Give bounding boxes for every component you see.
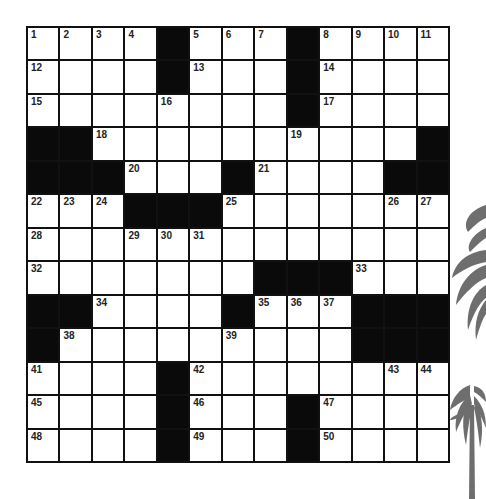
grid-cell[interactable]: 7 — [255, 28, 285, 59]
grid-cell[interactable]: 45 — [28, 396, 58, 427]
grid-cell[interactable]: 8 — [320, 28, 350, 59]
grid-cell[interactable] — [190, 296, 220, 327]
grid-cell[interactable] — [158, 296, 188, 327]
grid-cell[interactable] — [93, 396, 123, 427]
grid-cell[interactable] — [385, 229, 415, 260]
grid-cell[interactable] — [353, 162, 383, 193]
grid-cell[interactable]: 32 — [28, 262, 58, 293]
grid-cell[interactable] — [190, 262, 220, 293]
grid-cell[interactable] — [60, 61, 90, 92]
grid-cell[interactable]: 18 — [93, 128, 123, 159]
grid-cell[interactable] — [125, 61, 155, 92]
grid-cell[interactable] — [288, 162, 318, 193]
grid-cell[interactable] — [93, 262, 123, 293]
grid-cell[interactable] — [190, 128, 220, 159]
grid-cell[interactable]: 33 — [353, 262, 383, 293]
grid-cell[interactable]: 42 — [190, 363, 220, 394]
grid-cell[interactable]: 5 — [190, 28, 220, 59]
grid-cell[interactable]: 29 — [125, 229, 155, 260]
grid-cell[interactable]: 41 — [28, 363, 58, 394]
grid-cell[interactable]: 17 — [320, 95, 350, 126]
grid-cell[interactable] — [288, 229, 318, 260]
grid-cell[interactable]: 48 — [28, 430, 58, 461]
grid-cell[interactable]: 35 — [255, 296, 285, 327]
grid-cell[interactable] — [320, 162, 350, 193]
grid-cell[interactable]: 34 — [93, 296, 123, 327]
grid-cell[interactable]: 14 — [320, 61, 350, 92]
grid-cell[interactable]: 31 — [190, 229, 220, 260]
grid-cell[interactable]: 36 — [288, 296, 318, 327]
grid-cell[interactable] — [418, 430, 448, 461]
grid-cell[interactable] — [223, 262, 253, 293]
grid-cell[interactable] — [353, 430, 383, 461]
grid-cell[interactable] — [255, 329, 285, 360]
grid-cell[interactable]: 25 — [223, 195, 253, 226]
grid-cell[interactable] — [93, 95, 123, 126]
grid-cell[interactable] — [125, 95, 155, 126]
grid-cell[interactable] — [223, 363, 253, 394]
grid-cell[interactable]: 43 — [385, 363, 415, 394]
grid-cell[interactable] — [223, 396, 253, 427]
grid-cell[interactable] — [385, 396, 415, 427]
grid-cell[interactable] — [93, 363, 123, 394]
grid-cell[interactable] — [223, 61, 253, 92]
grid-cell[interactable]: 12 — [28, 61, 58, 92]
grid-cell[interactable] — [158, 128, 188, 159]
grid-cell[interactable] — [288, 363, 318, 394]
grid-cell[interactable] — [255, 95, 285, 126]
grid-cell[interactable] — [190, 162, 220, 193]
grid-cell[interactable] — [125, 363, 155, 394]
grid-cell[interactable] — [60, 95, 90, 126]
grid-cell[interactable] — [158, 262, 188, 293]
grid-cell[interactable]: 6 — [223, 28, 253, 59]
grid-cell[interactable] — [418, 61, 448, 92]
grid-cell[interactable]: 23 — [60, 195, 90, 226]
grid-cell[interactable]: 3 — [93, 28, 123, 59]
grid-cell[interactable]: 21 — [255, 162, 285, 193]
grid-cell[interactable]: 49 — [190, 430, 220, 461]
grid-cell[interactable] — [320, 363, 350, 394]
grid-cell[interactable]: 10 — [385, 28, 415, 59]
grid-cell[interactable]: 19 — [288, 128, 318, 159]
grid-cell[interactable] — [353, 396, 383, 427]
grid-cell[interactable]: 24 — [93, 195, 123, 226]
grid-cell[interactable] — [60, 262, 90, 293]
grid-cell[interactable] — [385, 61, 415, 92]
grid-cell[interactable] — [353, 195, 383, 226]
grid-cell[interactable] — [125, 296, 155, 327]
grid-cell[interactable] — [223, 430, 253, 461]
grid-cell[interactable]: 50 — [320, 430, 350, 461]
grid-cell[interactable] — [385, 262, 415, 293]
grid-cell[interactable] — [190, 329, 220, 360]
grid-cell[interactable] — [190, 95, 220, 126]
grid-cell[interactable] — [385, 95, 415, 126]
grid-cell[interactable] — [158, 162, 188, 193]
grid-cell[interactable] — [60, 363, 90, 394]
grid-cell[interactable] — [93, 229, 123, 260]
grid-cell[interactable] — [93, 61, 123, 92]
grid-cell[interactable] — [223, 229, 253, 260]
grid-cell[interactable] — [60, 229, 90, 260]
grid-cell[interactable]: 13 — [190, 61, 220, 92]
grid-cell[interactable] — [255, 363, 285, 394]
grid-cell[interactable] — [418, 229, 448, 260]
grid-cell[interactable] — [125, 262, 155, 293]
grid-cell[interactable]: 38 — [60, 329, 90, 360]
grid-cell[interactable]: 28 — [28, 229, 58, 260]
grid-cell[interactable]: 47 — [320, 396, 350, 427]
grid-cell[interactable] — [255, 61, 285, 92]
grid-cell[interactable] — [418, 95, 448, 126]
grid-cell[interactable]: 4 — [125, 28, 155, 59]
grid-cell[interactable] — [93, 329, 123, 360]
grid-cell[interactable] — [223, 95, 253, 126]
grid-cell[interactable]: 15 — [28, 95, 58, 126]
grid-cell[interactable]: 20 — [125, 162, 155, 193]
grid-cell[interactable] — [223, 128, 253, 159]
grid-cell[interactable]: 37 — [320, 296, 350, 327]
grid-cell[interactable] — [255, 229, 285, 260]
grid-cell[interactable] — [320, 329, 350, 360]
grid-cell[interactable] — [125, 128, 155, 159]
grid-cell[interactable]: 26 — [385, 195, 415, 226]
grid-cell[interactable]: 46 — [190, 396, 220, 427]
grid-cell[interactable] — [125, 329, 155, 360]
